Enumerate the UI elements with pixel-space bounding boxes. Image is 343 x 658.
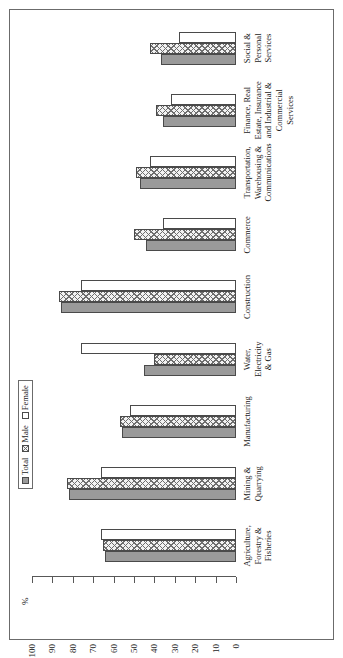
bar-male [67,478,236,489]
bar-male [103,540,236,551]
axis-tick-label: 80 [68,644,77,653]
bar-female [101,467,236,478]
bar-female [81,343,236,354]
axis-tick [32,577,33,583]
bar-total [61,303,236,314]
bar-group [32,529,236,562]
bar-group [32,94,236,127]
legend-item-male: Male [21,425,30,451]
bar-total [140,178,236,189]
bar-male [59,292,236,303]
axis-tick [73,577,74,583]
bar-female [163,218,236,229]
category-label: Social & Personal Services [242,17,274,79]
bar-female [81,281,236,292]
bar-female [179,32,236,43]
bar-female [101,529,236,540]
legend-swatch-male-icon [22,445,29,452]
bar-group [32,343,236,376]
bar-group [32,405,236,438]
category-label: Commerce [242,204,253,266]
bar-female [130,405,236,416]
bar-total [146,240,236,251]
axis-tick [175,577,176,583]
axis-tick [195,577,196,583]
plot-area: % 1009080706050403020100 Agriculture, Fo… [10,10,333,639]
bar-male [120,416,236,427]
category-label: Finance, Real Estate, Insurance and Indu… [242,79,295,141]
category-label: Transportation, Warehousing & Communicat… [242,141,274,203]
bar-male [134,229,236,240]
legend-label: Total [21,458,30,475]
bar-group [32,281,236,314]
bar-group [32,156,236,189]
axis-tick-label: 40 [150,644,159,653]
axis-tick-label: 50 [130,644,139,653]
axis-tick [134,577,135,583]
axis-tick-label: 90 [48,644,57,653]
bar-group [32,218,236,251]
axis-tick-label: 10 [211,644,220,653]
chart-legend: TotalMaleFemale [18,380,33,489]
category-label: Mining & Quarrying [242,453,263,515]
bar-groups [32,17,236,577]
axis-tick [236,577,237,583]
category-label: Manufacturing [242,390,253,452]
bar-total [69,489,236,500]
axis-tick-label: 20 [191,644,200,653]
bar-total [105,551,236,562]
axis-tick [216,577,217,583]
category-label: Water, Electricity & Gas [242,328,274,390]
axis-tick [114,577,115,583]
bar-group [32,32,236,65]
bar-female [150,156,236,167]
category-label: Construction [242,266,253,328]
rotated-chart-stage: % 1009080706050403020100 Agriculture, Fo… [10,10,333,639]
legend-label: Female [21,385,30,410]
bar-group [32,467,236,500]
legend-item-female: Female [21,385,30,419]
bar-total [144,365,236,376]
legend-item-total: Total [21,458,30,484]
axis-tick [154,577,155,583]
axis-tick [52,577,53,583]
axis-tick [93,577,94,583]
bar-total [161,54,236,65]
axis-unit-label: % [21,598,30,606]
legend-swatch-total-icon [22,477,29,484]
bar-male [154,354,236,365]
bar-total [122,427,236,438]
axis-tick-label: 30 [170,644,179,653]
bar-male [136,167,236,178]
legend-label: Male [21,425,30,442]
bar-total [163,116,236,127]
bar-female [171,94,236,105]
axis-tick-label: 100 [28,644,37,658]
axis-tick-label: 60 [109,644,118,653]
axis-tick-label: 0 [232,644,241,649]
bar-male [150,43,236,54]
bar-male [156,105,236,116]
chart-frame: % 1009080706050403020100 Agriculture, Fo… [9,9,334,640]
category-label: Agriculture, Forestry & Fisheries [242,515,274,577]
legend-swatch-female-icon [22,412,29,419]
axis-tick-label: 70 [89,644,98,653]
